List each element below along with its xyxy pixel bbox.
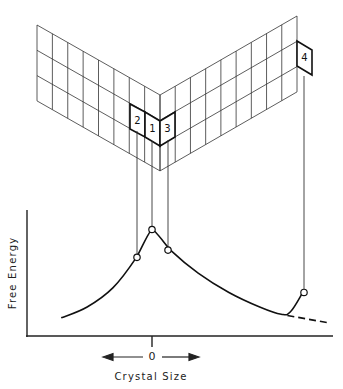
free-energy-curve-layer [61, 226, 327, 322]
right-terrace-grid [160, 16, 297, 171]
cell-3-box: 3 [160, 112, 175, 146]
data-point-1 [149, 226, 155, 232]
y-axis-label: Free Energy [7, 237, 18, 310]
x-axis-label: Crystal Size [114, 371, 187, 382]
right-arrow [162, 354, 199, 361]
data-point-3 [165, 247, 171, 253]
x-origin-label: 0 [149, 350, 156, 363]
cell-4-box: 4 [297, 41, 312, 75]
cell-1-box: 1 [145, 112, 160, 146]
cell-1-label: 1 [149, 123, 155, 134]
grid-row-line [160, 41, 297, 120]
left-terrace-grid [37, 25, 160, 171]
cell-4-label: 4 [301, 52, 307, 63]
grid-row-line [160, 16, 297, 95]
extrapolation [287, 315, 327, 322]
cell-3-label: 3 [164, 123, 170, 134]
data-point-4 [301, 289, 307, 295]
free-energy-curve [61, 230, 303, 318]
cell-2-box: 2 [130, 104, 145, 137]
crystal-free-energy-figure: 2134 Free Energy 0 Crystal Size [0, 0, 343, 389]
grid-row-line [160, 67, 297, 146]
grid-row-line [160, 92, 297, 171]
left-arrow [103, 354, 143, 361]
cell-2-label: 2 [134, 115, 140, 126]
data-point-2 [134, 254, 140, 260]
